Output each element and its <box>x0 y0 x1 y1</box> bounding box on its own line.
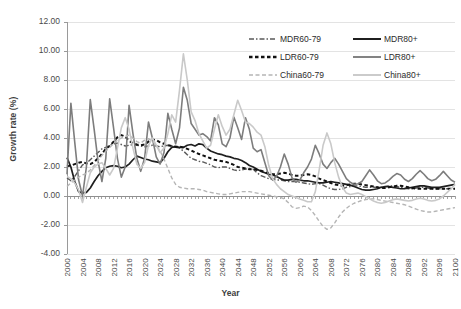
y-axis-title: Growth rate (%) <box>2 0 24 258</box>
x-tick-label: 2068 <box>327 258 336 277</box>
x-tick-label: 2048 <box>249 258 258 277</box>
legend-swatch-china60-79 <box>248 70 278 80</box>
y-tick-label: 8.00 <box>22 75 60 84</box>
x-axis-title: Year <box>0 288 461 298</box>
legend-swatch-china80- <box>352 70 382 80</box>
y-tick-label: 0.00 <box>22 191 60 200</box>
x-tick-label: 2076 <box>358 258 367 277</box>
x-tick-label: 2020 <box>141 258 150 277</box>
x-tick-label: 2000 <box>63 258 72 277</box>
x-tick-label: 2024 <box>156 258 165 277</box>
legend-label: China80+ <box>384 70 421 80</box>
x-tick-label: 2044 <box>234 258 243 277</box>
legend-swatch-ldr80- <box>352 52 382 62</box>
x-tick-label: 2028 <box>172 258 181 277</box>
chart-legend: MDR60-79MDR80+LDR60-79LDR80+China60-79Ch… <box>248 30 456 86</box>
x-tick-label: 2040 <box>218 258 227 277</box>
x-tick-label: 2084 <box>389 258 398 277</box>
y-tick-label: 6.00 <box>22 104 60 113</box>
legend-item-ldr60-79[interactable]: LDR60-79 <box>248 52 352 62</box>
series-line-ldr80- <box>67 87 455 196</box>
x-tick-label: 2012 <box>110 258 119 277</box>
legend-label: LDR80+ <box>384 52 415 62</box>
x-tick-label: 2008 <box>94 258 103 277</box>
y-tick-label: -2.00 <box>22 220 60 229</box>
legend-swatch-mdr60-79 <box>248 34 278 44</box>
y-tick-label: 4.00 <box>22 133 60 142</box>
y-axis-title-text: Growth rate (%) <box>8 97 18 162</box>
x-tick-label: 2072 <box>342 258 351 277</box>
legend-label: MDR60-79 <box>280 34 321 44</box>
x-tick-label: 2088 <box>404 258 413 277</box>
x-tick-label: 2036 <box>203 258 212 277</box>
x-tick-label: 2016 <box>125 258 134 277</box>
x-tick-label: 2052 <box>265 258 274 277</box>
x-tick-label: 2100 <box>451 258 460 277</box>
legend-item-china60-79[interactable]: China60-79 <box>248 70 352 80</box>
x-tick-label: 2064 <box>311 258 320 277</box>
y-tick-label: 12.00 <box>22 17 60 26</box>
x-tick-label: 2060 <box>296 258 305 277</box>
y-tick-label: 2.00 <box>22 162 60 171</box>
y-tick-label: -4.00 <box>22 249 60 258</box>
y-tick-label: 10.00 <box>22 46 60 55</box>
x-tick-label: 2056 <box>280 258 289 277</box>
x-tick-label: 2080 <box>373 258 382 277</box>
legend-swatch-ldr60-79 <box>248 52 278 62</box>
x-tick-label: 2092 <box>420 258 429 277</box>
legend-item-mdr60-79[interactable]: MDR60-79 <box>248 34 352 44</box>
x-tick-label: 2032 <box>187 258 196 277</box>
x-tick-label: 2004 <box>79 258 88 277</box>
legend-label: China60-79 <box>280 70 324 80</box>
legend-label: MDR80+ <box>384 34 418 44</box>
growth-rate-chart: Growth rate (%) Year 12.0010.008.006.004… <box>0 0 461 309</box>
legend-item-mdr80-[interactable]: MDR80+ <box>352 34 456 44</box>
legend-label: LDR60-79 <box>280 52 319 62</box>
x-tick-label: 2096 <box>435 258 444 277</box>
legend-item-china80-[interactable]: China80+ <box>352 70 456 80</box>
legend-item-ldr80-[interactable]: LDR80+ <box>352 52 456 62</box>
legend-swatch-mdr80- <box>352 34 382 44</box>
